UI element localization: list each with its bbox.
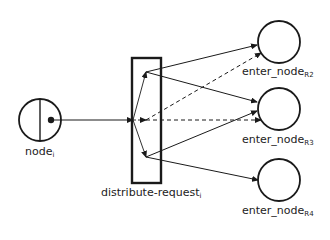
label-base: enter_node	[242, 204, 304, 217]
label-base: distribute-request	[101, 186, 199, 199]
target-node-r4	[258, 159, 300, 201]
distributor-label: distribute-requesti	[101, 186, 201, 200]
source-node-label: nodei	[25, 145, 54, 159]
target-r3-label: enter_nodeR3	[242, 133, 314, 147]
label-subscript: i	[199, 192, 201, 200]
label-subscript: R3	[304, 139, 313, 147]
label-subscript: R4	[304, 210, 313, 218]
target-node-r2	[258, 21, 300, 63]
label-base: node	[25, 145, 52, 158]
target-node-r3	[258, 88, 300, 130]
target-r4-label: enter_nodeR4	[242, 204, 314, 218]
label-subscript: R2	[304, 71, 313, 79]
target-r2-label: enter_nodeR2	[242, 65, 314, 79]
label-base: enter_node	[242, 133, 304, 146]
label-subscript: i	[52, 151, 54, 159]
internal-split	[133, 72, 146, 157]
label-base: enter_node	[242, 65, 304, 78]
